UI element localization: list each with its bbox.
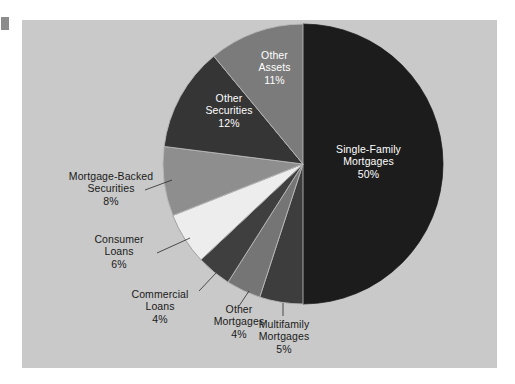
- slice-label-line-2: Mortgages: [242, 330, 326, 342]
- slice-label-line-1: Commercial: [113, 288, 207, 300]
- pie-chart-figure: Single-Family Mortgages 50% Other Securi…: [0, 0, 515, 384]
- slice-value-text: 8%: [52, 195, 170, 207]
- slice-label-consumer-loans: Consumer Loans 6%: [73, 233, 165, 270]
- slice-label-line-1: Consumer: [73, 233, 165, 245]
- slice-label-line-1: Other: [233, 49, 316, 61]
- slice-value-text: 4%: [113, 313, 207, 325]
- slice-label-commercial-loans: Commercial Loans 4%: [113, 288, 207, 325]
- slice-value-text: 6%: [73, 258, 165, 270]
- slice-label-line-1: Single-Family: [311, 143, 426, 155]
- slice-label-line-2: Mortgages: [311, 155, 426, 167]
- slice-label-line-1: Other: [196, 303, 282, 315]
- slice-label-single-family-mortgages: Single-Family Mortgages 50%: [311, 143, 426, 180]
- slice-label-line-1: Other: [178, 92, 280, 104]
- slice-label-mortgage-backed-securities: Mortgage-Backed Securities 8%: [52, 170, 170, 207]
- slice-label-line-1: Mortgage-Backed: [52, 170, 170, 182]
- slice-label-line-2: Securities: [52, 182, 170, 194]
- slice-label-other-assets: Other Assets 11%: [233, 49, 316, 86]
- slice-value-text: 12%: [178, 117, 280, 129]
- slice-label-line-2: Loans: [73, 245, 165, 257]
- slice-label-line-2: Loans: [113, 300, 207, 312]
- slice-value-text: 5%: [242, 343, 326, 355]
- slice-label-other-securities: Other Securities 12%: [178, 92, 280, 129]
- slice-value-text: 11%: [233, 74, 316, 86]
- slice-label-line-1: Multifamily: [242, 318, 326, 330]
- slice-label-line-2: Securities: [178, 104, 280, 116]
- slice-label-line-2: Assets: [233, 61, 316, 73]
- slice-label-multifamily-mortgages: Multifamily Mortgages 5%: [242, 318, 326, 355]
- slice-value-text: 50%: [311, 168, 426, 180]
